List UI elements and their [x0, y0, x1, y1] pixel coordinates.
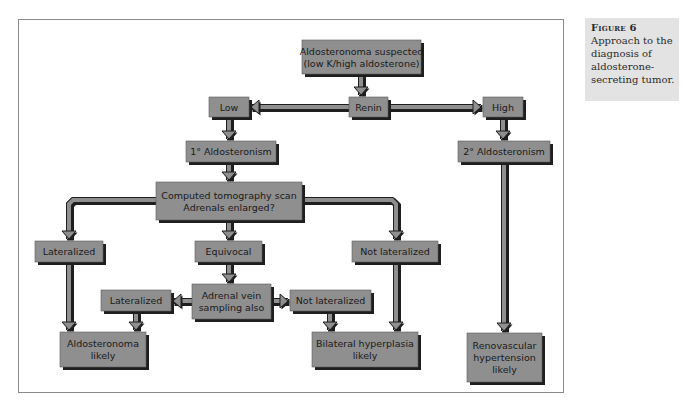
node-ct-not-lateralized: Not lateralized — [352, 241, 441, 265]
node-high: High — [483, 97, 526, 120]
node-ct-equivocal: Equivocal — [195, 241, 265, 265]
node-low: Low — [209, 97, 252, 120]
node-primary: 1° Aldosteronism — [186, 141, 279, 165]
node-label: Lateralized — [110, 295, 163, 306]
node-label: likely — [353, 350, 378, 361]
flow-arrow — [496, 117, 512, 141]
node-label: Not lateralized — [296, 295, 366, 306]
flow-arrow — [388, 100, 483, 116]
node-label: hypertension — [473, 352, 535, 363]
figure-caption: Figure 6 Approach to the diagnosis of al… — [585, 18, 679, 101]
node-avs-lateralized: Lateralized — [101, 290, 174, 314]
node-start: Aldosteronoma suspected(low K/high aldos… — [300, 40, 424, 77]
node-label: likely — [91, 350, 116, 361]
node-label: Bilateral hyperplasia — [316, 338, 414, 349]
node-label: 2° Aldosteronism — [463, 146, 545, 157]
flow-arrow — [62, 262, 78, 332]
node-label: Aldosteronoma — [67, 338, 139, 349]
node-avs: Adrenal veinsampling also — [192, 284, 274, 322]
figure-label: Figure 6 — [591, 21, 675, 34]
nodes-layer: Aldosteronoma suspected(low K/high aldos… — [35, 40, 553, 385]
node-label: Renin — [355, 102, 382, 113]
flow-arrow — [354, 74, 370, 97]
node-aldosteronoma: Aldosteronomalikely — [60, 332, 149, 370]
node-label: Low — [220, 102, 239, 113]
flow-arrow — [302, 200, 405, 241]
node-bilateral: Bilateral hyperplasialikely — [312, 332, 421, 370]
node-avs-not-lateralized: Not lateralized — [290, 290, 374, 314]
node-renin: Renin — [349, 97, 391, 120]
figure-caption-text: Approach to the diagnosis of aldosterone… — [591, 34, 675, 86]
node-label: 1° Aldosteronism — [190, 146, 272, 157]
node-label: Not lateralized — [360, 246, 430, 257]
flow-arrow — [129, 311, 145, 332]
node-ct-lateralized: Lateralized — [35, 241, 106, 265]
node-label: (low K/high aldosterone) — [303, 58, 419, 69]
flow-arrow — [222, 262, 238, 284]
flow-arrow — [222, 117, 238, 141]
flow-arrow — [251, 100, 351, 116]
node-renovascular: Renovascularhypertensionlikely — [467, 333, 545, 385]
flow-arrow — [173, 294, 194, 310]
node-label: Renovascular — [473, 340, 537, 351]
node-label: Lateralized — [43, 246, 96, 257]
flow-arrow — [323, 311, 339, 332]
node-label: sampling also — [199, 302, 265, 313]
node-label: Adrenal vein — [202, 290, 262, 301]
node-ct-scan: Computed tomography scanAdrenals enlarge… — [156, 182, 305, 223]
node-label: Aldosteronoma suspected — [300, 46, 424, 57]
node-label: Equivocal — [206, 246, 252, 257]
node-label: Computed tomography scan — [161, 190, 296, 201]
flow-arrow — [62, 200, 158, 241]
node-secondary: 2° Aldosteronism — [458, 141, 553, 165]
node-label: High — [492, 102, 514, 113]
flow-arrow — [389, 262, 405, 332]
node-label: likely — [492, 364, 517, 375]
node-label: Adrenals enlarged? — [183, 202, 274, 213]
flow-arrow — [222, 220, 238, 241]
flow-arrow — [497, 162, 513, 333]
